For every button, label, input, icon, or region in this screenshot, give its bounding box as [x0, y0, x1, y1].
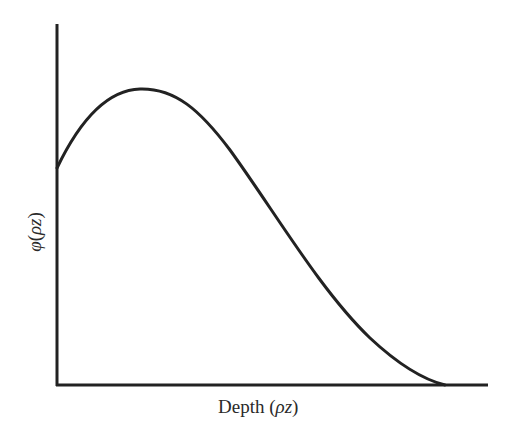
phi-rho-z-curve [57, 89, 445, 385]
chart-canvas [0, 0, 511, 436]
y-axis-label: φ(ρz) [24, 212, 46, 252]
